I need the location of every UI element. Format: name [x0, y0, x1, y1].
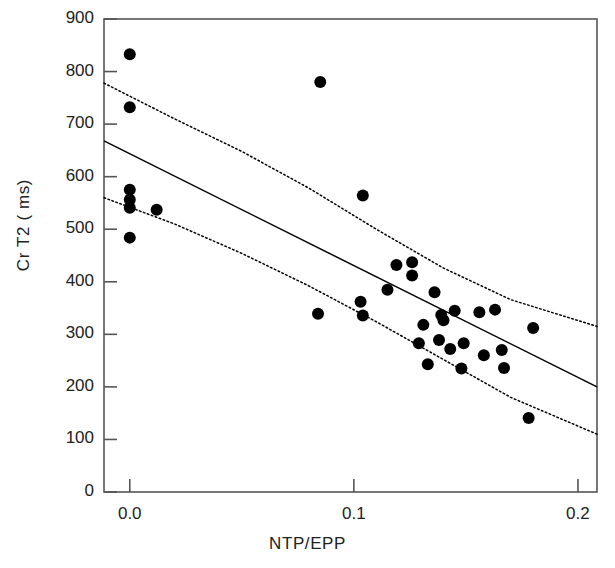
y-axis-tick-label: 300 — [34, 323, 94, 343]
data-point — [523, 412, 535, 424]
data-point — [444, 343, 456, 355]
y-axis-label-container: Cr T2 ( ms) — [14, 115, 34, 335]
y-axis-tick-label: 700 — [34, 113, 94, 133]
y-axis-tick-label: 200 — [34, 376, 94, 396]
data-point — [314, 76, 326, 88]
data-point — [355, 296, 367, 308]
data-point — [357, 190, 369, 202]
data-point — [449, 305, 461, 317]
data-point — [124, 232, 136, 244]
data-point — [406, 256, 418, 268]
x-axis-tick-label: 0.0 — [100, 504, 160, 524]
data-point — [496, 344, 508, 356]
data-point — [422, 358, 434, 370]
scatter-plot-figure: Cr T2 ( ms) NTP/EPP 01002003004005006007… — [0, 0, 615, 568]
x-axis-tick-label: 0.2 — [548, 504, 608, 524]
data-point — [489, 304, 501, 316]
y-axis-tick-label: 600 — [34, 166, 94, 186]
y-axis-tick-label: 0 — [34, 481, 94, 501]
data-point — [390, 259, 402, 271]
data-point — [413, 337, 425, 349]
x-axis-label: NTP/EPP — [0, 534, 615, 554]
y-axis-label: Cr T2 ( ms) — [14, 179, 33, 271]
y-axis-tick-label: 800 — [34, 61, 94, 81]
data-point — [473, 306, 485, 318]
data-point — [357, 309, 369, 321]
data-point — [124, 202, 136, 214]
y-axis-tick-label: 900 — [34, 8, 94, 28]
data-point — [455, 362, 467, 374]
data-point — [151, 204, 163, 216]
y-axis-tick-label: 400 — [34, 271, 94, 291]
x-axis-tick-label: 0.1 — [324, 504, 384, 524]
y-axis-tick-label: 100 — [34, 428, 94, 448]
data-point — [438, 314, 450, 326]
data-point — [478, 349, 490, 361]
data-point — [124, 48, 136, 60]
data-point — [498, 362, 510, 374]
data-point — [406, 269, 418, 281]
data-point — [527, 322, 539, 334]
y-axis-tick-label: 500 — [34, 218, 94, 238]
lower-confidence-band — [104, 198, 597, 435]
data-point — [312, 308, 324, 320]
data-point — [124, 101, 136, 113]
regression-line — [104, 141, 597, 387]
data-point — [458, 337, 470, 349]
data-point — [417, 319, 429, 331]
plot-frame — [104, 19, 597, 492]
upper-confidence-band — [104, 83, 597, 326]
data-point — [429, 286, 441, 298]
data-point — [381, 284, 393, 296]
data-point — [433, 334, 445, 346]
